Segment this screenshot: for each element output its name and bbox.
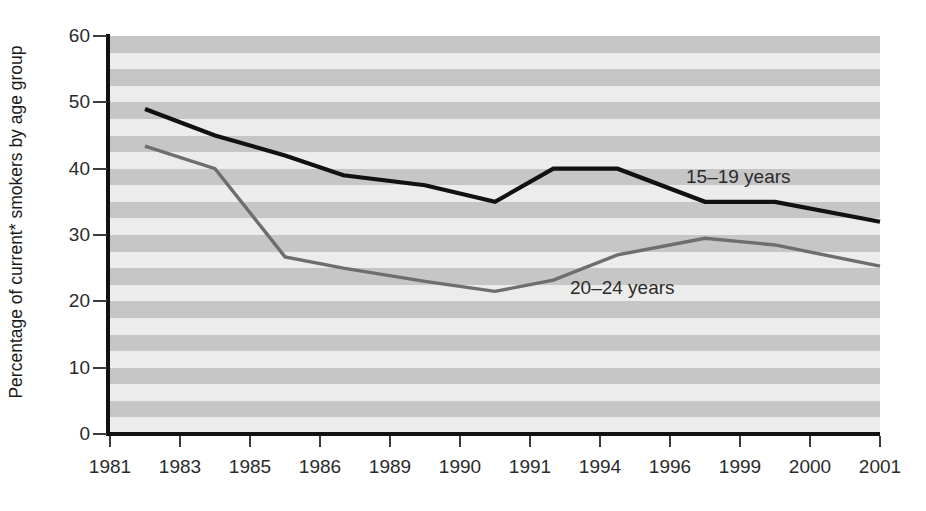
x-tick-mark — [809, 436, 811, 447]
series-label-15-19: 15–19 years — [686, 167, 791, 187]
background-band — [110, 252, 880, 269]
x-tick-mark — [669, 436, 671, 447]
y-tick-label: 50 — [36, 92, 90, 111]
x-tick-mark — [879, 436, 881, 447]
x-tick-label: 1986 — [280, 456, 360, 478]
x-tick-mark — [389, 436, 391, 447]
x-tick-mark — [739, 436, 741, 447]
x-tick-mark — [109, 436, 111, 447]
background-band — [110, 401, 880, 418]
y-tick-mark — [93, 168, 107, 170]
background-band — [110, 136, 880, 153]
background-band — [110, 119, 880, 136]
y-axis-title-text: Percentage of current* smokers by age gr… — [2, 6, 30, 438]
y-tick-mark — [93, 234, 107, 236]
background-band — [110, 318, 880, 335]
background-band — [110, 218, 880, 235]
x-axis-line — [106, 432, 880, 436]
background-band — [110, 185, 880, 202]
x-tick-label: 2000 — [770, 456, 850, 478]
x-tick-label: 1999 — [700, 456, 780, 478]
x-tick-label: 1990 — [420, 456, 500, 478]
y-tick-label: 40 — [36, 159, 90, 178]
background-band — [110, 53, 880, 70]
x-tick-mark — [249, 436, 251, 447]
x-tick-label: 1994 — [560, 456, 640, 478]
background-band — [110, 368, 880, 385]
x-tick-label: 1985 — [210, 456, 290, 478]
x-tick-mark — [599, 436, 601, 447]
y-tick-mark — [93, 101, 107, 103]
background-band — [110, 36, 880, 53]
y-tick-label: 30 — [36, 225, 90, 244]
x-tick-mark — [179, 436, 181, 447]
background-band — [110, 285, 880, 302]
x-tick-label: 2001 — [840, 456, 920, 478]
x-tick-label: 1983 — [140, 456, 220, 478]
y-tick-mark — [93, 367, 107, 369]
x-tick-mark — [459, 436, 461, 447]
background-band — [110, 335, 880, 352]
background-band — [110, 384, 880, 401]
background-band — [110, 351, 880, 368]
background-band — [110, 268, 880, 285]
smoking-prevalence-line-chart: Percentage of current* smokers by age gr… — [0, 0, 926, 511]
background-band — [110, 235, 880, 252]
background-band — [110, 301, 880, 318]
plot-area — [110, 36, 880, 434]
y-tick-label: 10 — [36, 358, 90, 377]
series-label-20-24: 20–24 years — [570, 278, 675, 298]
y-tick-label: 0 — [36, 424, 90, 443]
x-tick-label: 1981 — [70, 456, 150, 478]
y-tick-mark — [93, 300, 107, 302]
x-tick-mark — [529, 436, 531, 447]
x-tick-label: 1996 — [630, 456, 710, 478]
x-tick-label: 1989 — [350, 456, 430, 478]
x-tick-label: 1991 — [490, 456, 570, 478]
y-tick-mark — [93, 433, 107, 435]
y-tick-mark — [93, 35, 107, 37]
background-band — [110, 102, 880, 119]
y-tick-label: 60 — [36, 26, 90, 45]
x-tick-mark — [319, 436, 321, 447]
background-band — [110, 69, 880, 86]
y-axis-title: Percentage of current* smokers by age gr… — [2, 6, 30, 438]
background-band — [110, 202, 880, 219]
background-band — [110, 86, 880, 103]
y-tick-label: 20 — [36, 291, 90, 310]
